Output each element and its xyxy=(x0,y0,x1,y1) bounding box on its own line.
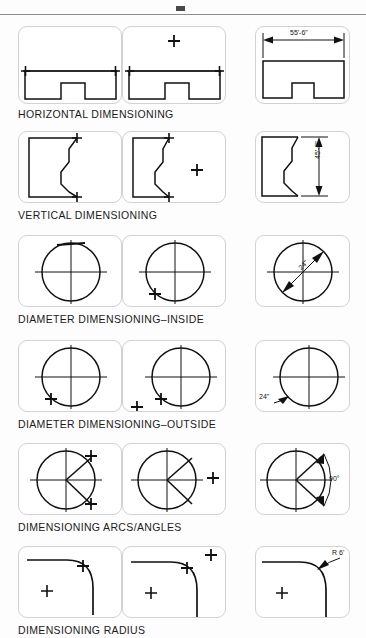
cursor-cross xyxy=(131,401,143,412)
panel-radius-step3[interactable]: R 6' xyxy=(255,546,350,618)
snap-cross xyxy=(45,393,57,405)
caption-vertical: VERTICAL DIMENSIONING xyxy=(18,209,157,221)
panel-vertical-step1[interactable] xyxy=(18,131,122,203)
panel-diameter-outside-step1[interactable] xyxy=(18,340,122,412)
reference-sheet: 55'-6" HORIZONTAL DIMENSIONING xyxy=(0,0,366,638)
cursor-cross xyxy=(191,164,203,176)
snap-cross xyxy=(149,288,161,300)
panel-diameter-inside-step1[interactable] xyxy=(18,235,122,307)
panel-diameter-outside-step3[interactable]: 24" xyxy=(255,340,350,412)
caption-horizontal: HORIZONTAL DIMENSIONING xyxy=(18,108,174,120)
caption-radius: DIMENSIONING RADIUS xyxy=(18,624,145,636)
panel-vertical-step3[interactable]: 45'-6" xyxy=(255,131,350,203)
panel-arcs-step2[interactable] xyxy=(122,443,226,515)
panel-diameter-inside-step2[interactable] xyxy=(122,235,226,307)
row-arcs-angles: 90° DIMENSIONING ARCS/ANGLES xyxy=(0,443,366,523)
top-tick-mark xyxy=(176,6,185,11)
panel-diameter-inside-step3[interactable]: 24" xyxy=(255,235,350,307)
panel-horizontal-step1[interactable] xyxy=(18,26,122,104)
dimension-label-diameter-outside: 24" xyxy=(259,393,269,400)
dimension-label-angle: 90° xyxy=(329,475,340,482)
cursor-cross xyxy=(168,35,180,47)
panel-horizontal-step2[interactable] xyxy=(122,26,226,104)
snap-cross xyxy=(155,393,167,405)
caption-arcs-angles: DIMENSIONING ARCS/ANGLES xyxy=(18,521,182,533)
cursor-cross xyxy=(41,585,53,597)
dimension-label-horizontal: 55'-6" xyxy=(290,29,308,36)
dimension-label-vertical: 45'-6" xyxy=(314,141,321,159)
cursor-cross xyxy=(207,472,219,484)
row-diameter-inside: 24" DIAMETER DIMENSIONING–INSIDE xyxy=(0,235,366,315)
panel-arcs-step1[interactable] xyxy=(18,443,122,515)
row-vertical: 45'-6" VERTICAL DIMENSIONING xyxy=(0,131,366,211)
cursor-cross-outside xyxy=(205,549,217,561)
panel-diameter-outside-step2[interactable] xyxy=(122,340,226,412)
top-divider xyxy=(0,14,366,15)
row-horizontal: 55'-6" HORIZONTAL DIMENSIONING xyxy=(0,26,366,106)
dimension-label-radius: R 6' xyxy=(332,549,344,556)
panel-radius-step2[interactable] xyxy=(122,546,226,618)
cursor-cross xyxy=(145,587,157,599)
cursor-cross xyxy=(276,587,288,599)
panel-vertical-step2[interactable] xyxy=(122,131,226,203)
panel-horizontal-step3[interactable]: 55'-6" xyxy=(255,26,350,104)
caption-diameter-inside: DIAMETER DIMENSIONING–INSIDE xyxy=(18,313,204,325)
row-diameter-outside: 24" DIAMETER DIMENSIONING–OUTSIDE xyxy=(0,340,366,420)
caption-diameter-outside: DIAMETER DIMENSIONING–OUTSIDE xyxy=(18,418,216,430)
row-radius: R 6' DIMENSIONING RADIUS xyxy=(0,546,366,626)
panel-radius-step1[interactable] xyxy=(18,546,122,618)
panel-arcs-step3[interactable]: 90° xyxy=(255,443,350,515)
